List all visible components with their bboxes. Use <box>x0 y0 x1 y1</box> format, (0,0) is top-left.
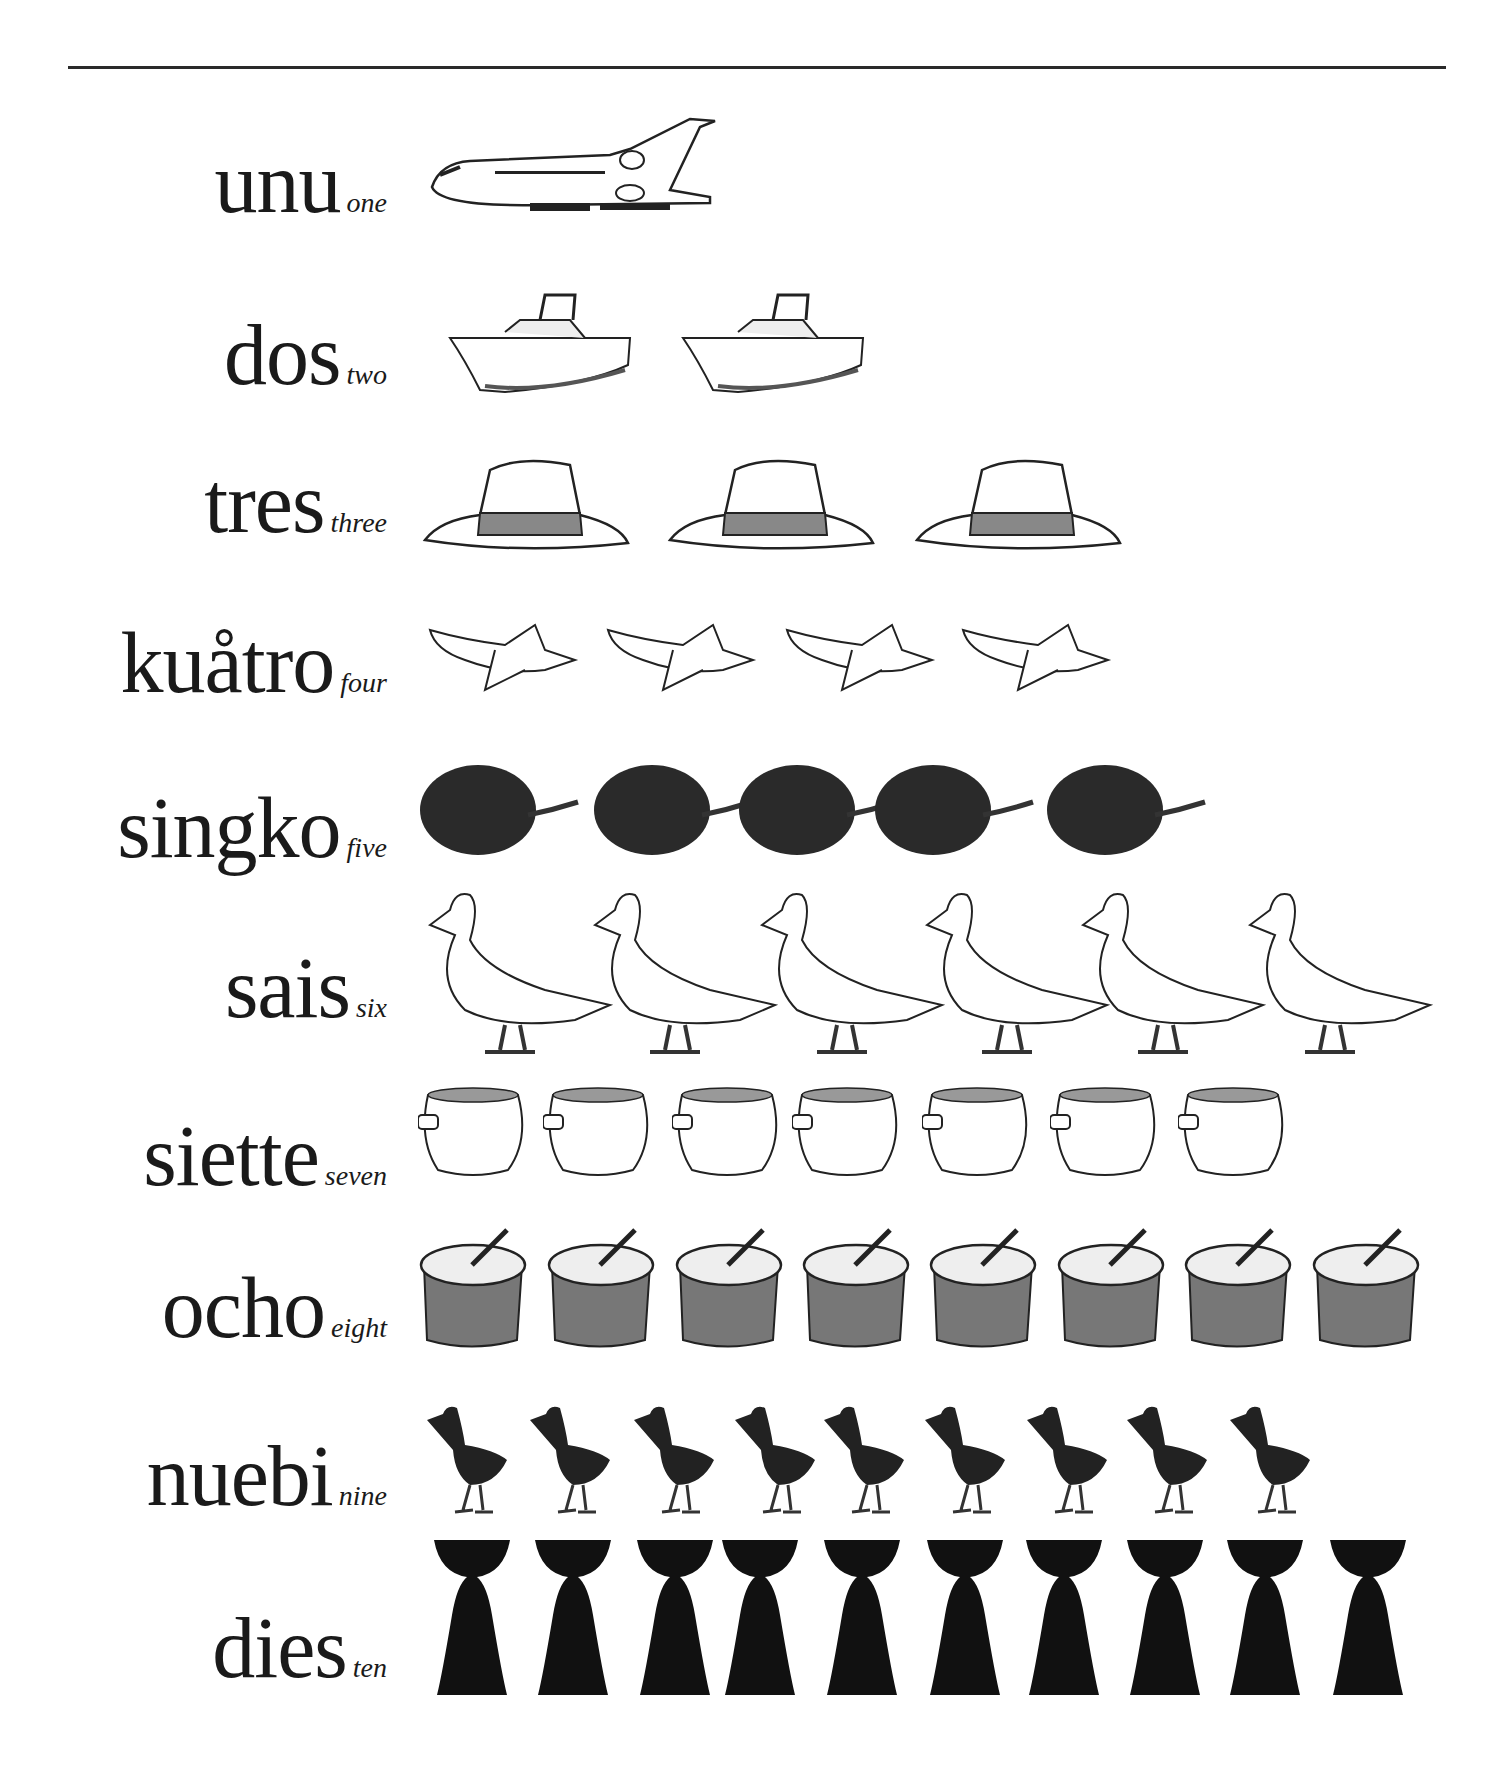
latte-stone-icon <box>533 1535 613 1700</box>
english-word: four <box>340 667 387 698</box>
cooking-pot-icon <box>1177 1225 1302 1355</box>
number-label: nuebinine <box>147 1433 387 1519</box>
banana-icon <box>603 620 758 695</box>
banana-icon <box>958 620 1113 695</box>
english-word: five <box>347 832 387 863</box>
english-word: three <box>331 507 388 538</box>
latte-stone-icon <box>1125 1535 1205 1700</box>
rail-bird-icon <box>923 1400 1013 1520</box>
english-word: one <box>347 187 387 218</box>
chamorro-word: siette <box>143 1108 319 1204</box>
latte-stone-icon <box>1328 1535 1408 1700</box>
number-row-seven: sietteseven <box>0 1085 1499 1185</box>
rail-bird-icon <box>632 1400 722 1520</box>
number-row-five: singkofive <box>0 760 1499 870</box>
chamorro-word: dos <box>224 307 340 403</box>
number-label: sietteseven <box>143 1113 387 1199</box>
number-label: tresthree <box>204 460 387 546</box>
chamorro-word: singko <box>117 780 340 876</box>
chamorro-word: unu <box>215 135 341 231</box>
cooking-pot-icon <box>922 1225 1047 1355</box>
clay-pot-icon <box>1178 1085 1293 1180</box>
chamorro-word: nuebi <box>147 1428 333 1524</box>
chamorro-word: ocho <box>162 1260 325 1356</box>
cooking-pot-icon <box>1305 1225 1430 1355</box>
duck-icon <box>590 880 780 1060</box>
number-row-nine: nuebinine <box>0 1395 1499 1525</box>
number-label: singkofive <box>117 785 387 871</box>
chamorro-word: sais <box>225 940 350 1036</box>
number-row-three: tresthree <box>0 455 1499 565</box>
top-rule <box>68 66 1446 69</box>
banana-icon <box>782 620 937 695</box>
rail-bird-icon <box>528 1400 618 1520</box>
duck-icon <box>425 880 615 1060</box>
duck-icon <box>1245 880 1435 1060</box>
latte-stone-icon <box>1225 1535 1305 1700</box>
rail-bird-icon <box>822 1400 912 1520</box>
cooking-pot-icon <box>668 1225 793 1355</box>
boat-icon <box>445 290 635 400</box>
cooking-pot-icon <box>540 1225 665 1355</box>
english-word: two <box>347 359 387 390</box>
cooking-pot-icon <box>1050 1225 1175 1355</box>
english-word: seven <box>325 1160 387 1191</box>
english-word: nine <box>339 1480 387 1511</box>
chamorro-word: dies <box>212 1600 347 1696</box>
rail-bird-icon <box>1228 1400 1318 1520</box>
latte-stone-icon <box>635 1535 715 1700</box>
chamorro-word: tres <box>204 455 324 551</box>
clay-pot-icon <box>1050 1085 1165 1180</box>
rail-bird-icon <box>1025 1400 1115 1520</box>
clay-pot-icon <box>418 1085 533 1180</box>
english-word: six <box>356 992 387 1023</box>
fruit-icon <box>418 760 588 860</box>
number-row-one: unuone <box>0 110 1499 230</box>
number-label: saissix <box>225 945 387 1031</box>
rail-bird-icon <box>1125 1400 1215 1520</box>
rail-bird-icon <box>733 1400 823 1520</box>
number-row-four: kuåtrofour <box>0 615 1499 715</box>
boat-icon <box>678 290 868 400</box>
number-row-two: dostwo <box>0 280 1499 410</box>
number-label: ochoeight <box>162 1265 387 1351</box>
latte-stone-icon <box>925 1535 1005 1700</box>
number-row-ten: diesten <box>0 1535 1499 1705</box>
clay-pot-icon <box>792 1085 907 1180</box>
number-label: diesten <box>212 1605 387 1691</box>
airplane-icon <box>420 115 720 225</box>
cooking-pot-icon <box>795 1225 920 1355</box>
banana-icon <box>425 620 580 695</box>
english-word: ten <box>353 1652 387 1683</box>
hat-icon <box>420 455 630 555</box>
hat-icon <box>912 455 1122 555</box>
chamorro-word: kuåtro <box>121 615 335 711</box>
number-label: dostwo <box>224 312 387 398</box>
clay-pot-icon <box>543 1085 658 1180</box>
latte-stone-icon <box>720 1535 800 1700</box>
number-label: kuåtrofour <box>121 620 387 706</box>
clay-pot-icon <box>672 1085 787 1180</box>
number-row-six: saissix <box>0 880 1499 1070</box>
latte-stone-icon <box>822 1535 902 1700</box>
clay-pot-icon <box>922 1085 1037 1180</box>
english-word: eight <box>331 1312 387 1343</box>
latte-stone-icon <box>1024 1535 1104 1700</box>
rail-bird-icon <box>425 1400 515 1520</box>
hat-icon <box>665 455 875 555</box>
duck-icon <box>757 880 947 1060</box>
duck-icon <box>1078 880 1268 1060</box>
fruit-icon <box>1045 760 1215 860</box>
number-row-eight: ochoeight <box>0 1225 1499 1355</box>
cooking-pot-icon <box>412 1225 537 1355</box>
number-label: unuone <box>215 140 387 226</box>
latte-stone-icon <box>432 1535 512 1700</box>
fruit-icon <box>873 760 1043 860</box>
